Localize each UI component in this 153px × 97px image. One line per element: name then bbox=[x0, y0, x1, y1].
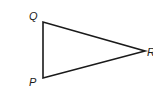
vertex-label-p: P bbox=[29, 76, 37, 88]
vertex-label-q: Q bbox=[29, 10, 38, 22]
triangle-diagram: Q P R bbox=[0, 0, 153, 97]
vertex-label-r: R bbox=[147, 46, 153, 58]
triangle-pqr bbox=[43, 22, 145, 78]
triangle-figure: Q P R bbox=[0, 0, 153, 97]
